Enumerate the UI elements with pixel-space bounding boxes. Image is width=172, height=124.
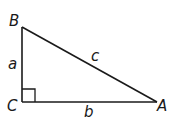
triangle-figure: B C A a b c xyxy=(0,0,172,124)
right-triangle-diagram: B C A a b c xyxy=(0,0,172,124)
side-label-a: a xyxy=(8,55,17,73)
vertex-label-b: B xyxy=(9,12,19,30)
side-label-c: c xyxy=(91,47,100,65)
right-angle-marker xyxy=(22,89,35,102)
side-label-b: b xyxy=(84,103,94,121)
vertex-label-c: C xyxy=(7,97,18,115)
side-c-line xyxy=(22,27,157,102)
vertex-label-a: A xyxy=(156,97,167,115)
